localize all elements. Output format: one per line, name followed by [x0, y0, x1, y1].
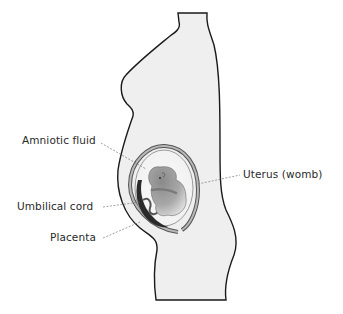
- label-umbilical-cord: Umbilical cord: [17, 200, 93, 212]
- label-uterus: Uterus (womb): [243, 168, 322, 180]
- fetus-eye: [159, 177, 161, 179]
- leader-placenta: [103, 222, 140, 238]
- pregnancy-diagram: [0, 0, 343, 314]
- label-placenta: Placenta: [50, 231, 96, 243]
- label-amniotic-fluid: Amniotic fluid: [22, 134, 96, 146]
